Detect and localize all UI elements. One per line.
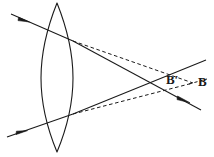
label-b: B — [198, 75, 207, 88]
optics-ray-diagram-figure: B′ B — [0, 0, 214, 157]
incoming-upper-ray-arrowhead — [18, 17, 29, 22]
label-b-prime: B′ — [166, 73, 179, 86]
ray-diagram-canvas — [0, 0, 214, 157]
refracted-upper-ray-arrowhead — [177, 96, 190, 103]
incoming-lower-ray-arrowhead — [16, 131, 28, 135]
virtual-lower-dashed-ray — [73, 83, 193, 114]
refracted-lower-solid-ray — [73, 60, 206, 114]
biconvex-lens-outline — [41, 3, 73, 152]
